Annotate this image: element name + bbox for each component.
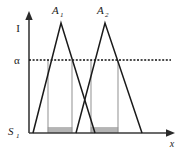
set-label-a2-letter: A [96, 4, 104, 16]
alpha-label: α [14, 54, 20, 66]
set-label-a1-letter: A [51, 4, 59, 16]
y-axis-label: I [16, 22, 20, 34]
alpha-cut-diagram: I α S 1 A 1 A 2 x [0, 0, 189, 152]
origin-label-subscript: 1 [16, 132, 20, 140]
origin-label-letter: S [8, 125, 14, 137]
figure-container: I α S 1 A 1 A 2 x [0, 0, 189, 152]
x-axis-label: x [169, 138, 175, 149]
alpha-cut-band-a1 [48, 128, 72, 133]
set-label-a2-subscript: 2 [105, 11, 109, 19]
set-label-a1-subscript: 1 [60, 11, 64, 19]
